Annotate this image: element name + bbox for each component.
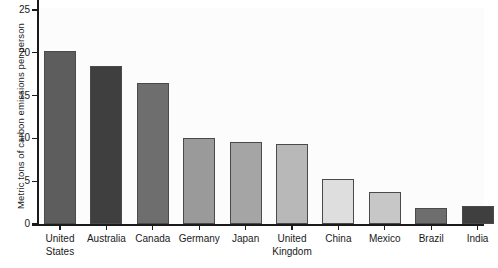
bar <box>137 83 169 224</box>
x-tick-mark <box>477 225 478 230</box>
y-tick-mark <box>32 223 38 224</box>
x-tick-mark <box>338 225 339 230</box>
x-tick-mark <box>384 225 385 230</box>
bar <box>369 192 401 224</box>
bar <box>90 66 122 224</box>
bar <box>44 51 76 224</box>
y-axis-title: Metric tons of carbon emissions per pers… <box>14 0 28 232</box>
x-tick-mark <box>59 225 60 230</box>
bar <box>415 208 447 224</box>
x-tick-mark <box>106 225 107 230</box>
x-tick-mark <box>291 225 292 230</box>
bar <box>230 142 262 224</box>
y-tick-label: 25 <box>4 5 30 15</box>
y-tick-mark <box>32 52 38 53</box>
y-tick-mark <box>32 95 38 96</box>
bar <box>183 138 215 224</box>
x-tick-label-line1: India <box>467 233 489 244</box>
y-tick-label: 0 <box>4 219 30 229</box>
bar <box>462 206 494 224</box>
y-tick-label: 10 <box>4 133 30 143</box>
bar <box>276 144 308 224</box>
x-tick-label: India <box>438 233 498 246</box>
x-tick-label-line2: Kingdom <box>252 246 332 259</box>
y-tick-label: 15 <box>4 91 30 101</box>
x-tick-mark <box>245 225 246 230</box>
bar <box>322 179 354 224</box>
y-tick-mark <box>32 138 38 139</box>
y-tick-mark <box>32 181 38 182</box>
y-tick-label: 20 <box>4 48 30 58</box>
y-tick-label: 5 <box>4 176 30 186</box>
x-tick-label-line2: States <box>20 246 100 259</box>
y-axis-line <box>37 0 39 225</box>
x-tick-mark <box>431 225 432 230</box>
y-tick-mark <box>32 9 38 10</box>
x-tick-mark <box>199 225 200 230</box>
x-tick-mark <box>152 225 153 230</box>
